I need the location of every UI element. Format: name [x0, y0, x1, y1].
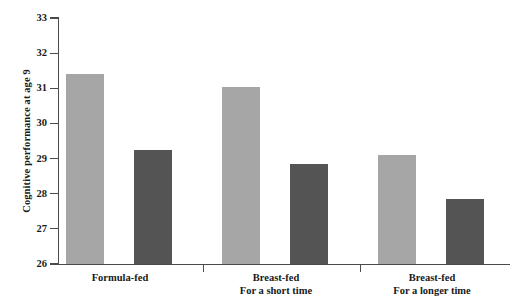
x-group-label-line1: Breast-fed: [409, 272, 455, 283]
y-tick-label: 31: [37, 83, 48, 94]
y-axis-line: [58, 17, 59, 265]
y-tick-30: 30: [50, 123, 58, 124]
x-group-label-line2: For a longer time: [357, 284, 507, 297]
x-group-label-line1: Breast-fed: [253, 272, 299, 283]
y-tick-label: 32: [37, 48, 48, 59]
y-axis-title: Cognitive performance at age 9: [18, 18, 36, 264]
x-group-label-line2: For a short time: [201, 284, 351, 297]
x-group-label-1: Breast-fedFor a short time: [201, 271, 351, 297]
y-tick-label: 33: [37, 13, 48, 24]
y-tick-28: 28: [50, 193, 58, 194]
bar-g1-s0: [222, 87, 260, 264]
y-tick-label: 26: [37, 259, 48, 270]
y-tick-32: 32: [50, 53, 58, 54]
y-tick-label: 29: [37, 153, 48, 164]
y-tick-label: 27: [37, 224, 48, 235]
bar-g0-s0: [66, 74, 104, 264]
bar-g2-s1: [446, 199, 484, 264]
bar-g1-s1: [290, 164, 328, 264]
y-tick-27: 27: [50, 228, 58, 229]
y-tick-29: 29: [50, 158, 58, 159]
y-tick-label: 30: [37, 118, 48, 129]
bar-g0-s1: [134, 150, 172, 264]
x-axis-line: [58, 264, 510, 265]
y-tick-33: 33: [50, 17, 58, 18]
bar-chart: Cognitive performance at age 9 333231302…: [0, 0, 516, 305]
x-group-label-2: Breast-fedFor a longer time: [357, 271, 507, 297]
y-tick-31: 31: [50, 88, 58, 89]
y-tick-26: 26: [50, 263, 58, 264]
x-group-label-line1: Formula-fed: [92, 272, 149, 283]
bar-g2-s0: [378, 155, 416, 264]
y-tick-label: 28: [37, 188, 48, 199]
x-group-label-0: Formula-fed: [45, 271, 195, 284]
